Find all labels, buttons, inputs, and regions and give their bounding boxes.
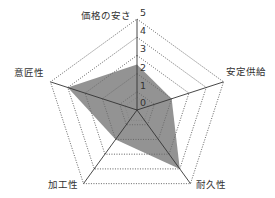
tick-label-0: 0 xyxy=(140,97,146,108)
category-label: 安定供給 xyxy=(226,66,266,77)
tick-label-5: 5 xyxy=(140,7,146,18)
tick-label-3: 3 xyxy=(140,43,146,54)
category-label: 耐久性 xyxy=(196,179,226,190)
category-label: 価格の安さ xyxy=(81,10,131,21)
category-label: 加工性 xyxy=(48,179,78,190)
tick-label-1: 1 xyxy=(140,80,146,91)
radar-chart-svg: 012345 価格の安さ安定供給耐久性加工性意匠性 xyxy=(0,0,275,198)
category-label: 意匠性 xyxy=(14,67,44,78)
tick-label-4: 4 xyxy=(140,25,146,36)
tick-label-2: 2 xyxy=(140,62,146,73)
axis-spokes xyxy=(50,19,223,184)
